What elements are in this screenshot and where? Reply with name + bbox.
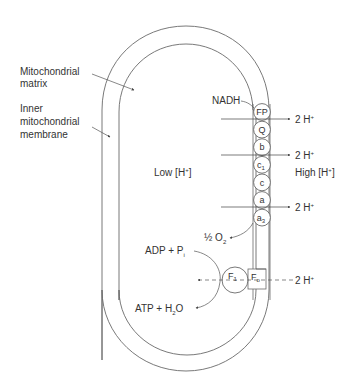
label-high-h: High [H+] [295,167,335,178]
proton-pump-label: 2 H+ [295,150,315,161]
o2-arrow [230,223,253,238]
carrier-label: FP [256,107,268,117]
label-matrix-line2: matrix [20,78,47,89]
label-matrix: Mitochondrial matrix [20,66,134,90]
label-matrix-line1: Mitochondrial [20,66,79,77]
carrier-label: b [259,142,264,152]
proton-pump-label: 2 H+ [295,114,315,125]
carrier-FP: FP [254,104,271,121]
carrier-label: Q [258,125,265,135]
phosphorylation-arrow [194,251,220,308]
carrier-a: a [254,192,271,209]
mitochondrion-diagram: Mitochondrial matrix Inner mitochondrial… [0,0,358,376]
label-membrane-line1: Inner [20,103,43,114]
carrier-b: b [254,139,271,156]
carrier-c1: c1 [254,156,271,173]
carrier-label: c [260,178,265,188]
label-membrane-line2: mitochondrial [20,116,79,127]
label-low-h: Low [H+] [154,167,192,178]
label-membrane-line3: membrane [20,129,68,140]
svg-text:Low [H+]: Low [H+] [154,167,192,178]
carrier-Q: Q [254,121,271,138]
carrier-label: a [259,195,264,205]
label-half-o2: ½ O2 [204,232,227,245]
label-nadh: NADH [212,95,240,106]
label-atp-h2o: ATP + H2O [135,303,184,316]
carrier-c: c [254,174,271,191]
svg-text:High [H+]: High [H+] [295,167,335,178]
proton-pump-label: 2 H+ [295,202,315,213]
label-adp-pi: ADP + Pi [145,245,185,258]
label-atp-synthase-h: 2 H+ [295,275,315,286]
label-inner-membrane: Inner mitochondrial membrane [20,103,110,140]
carrier-a3: a3 [254,209,271,226]
